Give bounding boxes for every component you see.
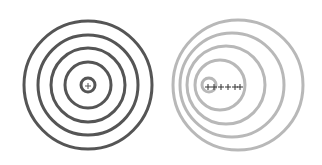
stationary-source-panel	[24, 21, 152, 149]
source-position-cross-icon	[225, 84, 231, 90]
source-position-cross-icon	[85, 83, 91, 89]
wavefront-diagram	[0, 0, 322, 165]
source-position-cross-icon	[218, 84, 224, 90]
moving-source-panel	[173, 20, 303, 150]
wavefront-circle	[187, 46, 265, 124]
source-position-cross-icon	[237, 84, 243, 90]
source-position-cross-icon	[205, 84, 211, 90]
diagram-canvas	[0, 0, 322, 165]
